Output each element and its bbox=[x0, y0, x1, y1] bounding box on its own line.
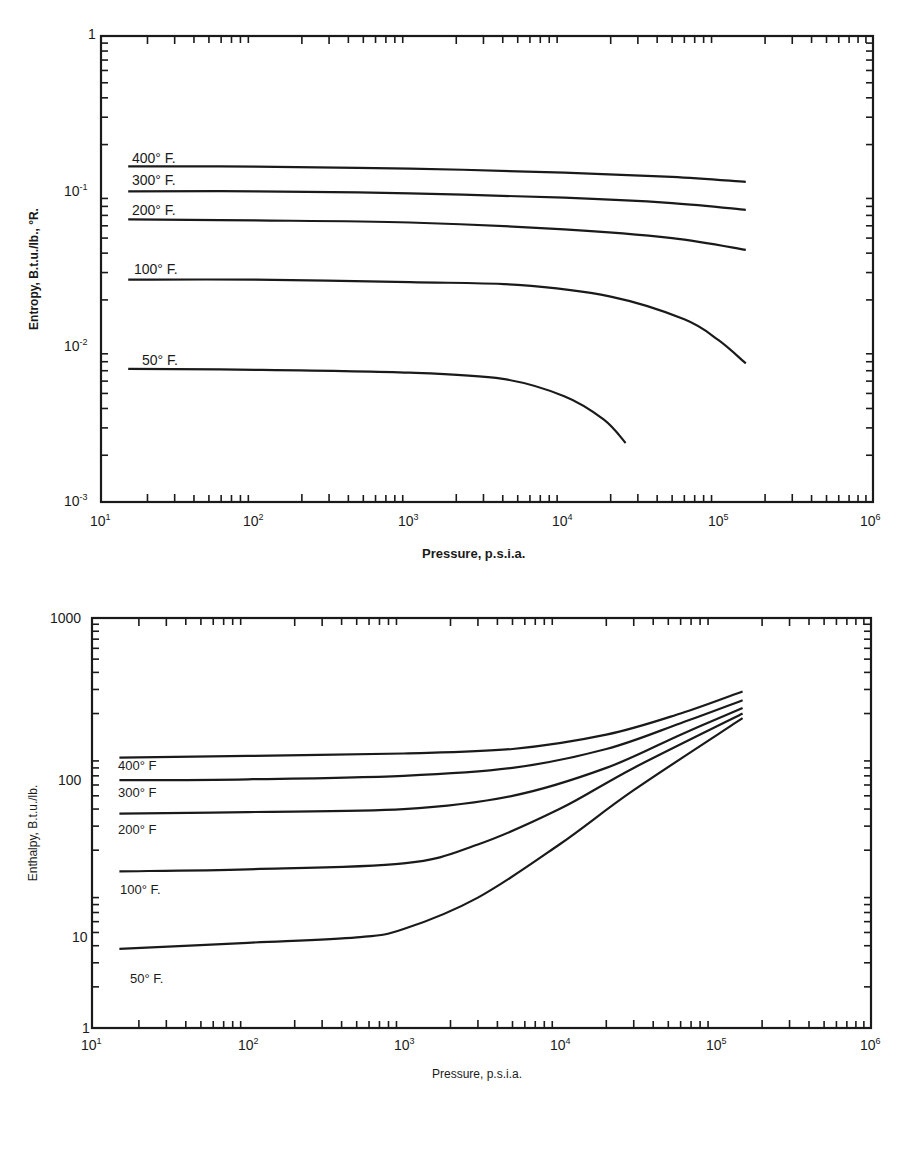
series-label-300F: 300° F bbox=[118, 785, 156, 800]
x-tick-label-1e4: 104 bbox=[552, 512, 573, 529]
series-label-400F: 400° F bbox=[118, 758, 156, 773]
y-tick-label-100: 100 bbox=[58, 772, 81, 788]
entropy-plot-area bbox=[0, 0, 909, 580]
series-curve-3 bbox=[119, 714, 742, 872]
series-label-100F: 100° F. bbox=[134, 261, 178, 277]
entropy-x-axis-title: Pressure, p.s.i.a. bbox=[422, 546, 525, 561]
x-tick-label-1e5: 105 bbox=[708, 512, 729, 529]
series-label-100F: 100° F. bbox=[120, 882, 161, 897]
series-label-50F: 50° F. bbox=[130, 971, 163, 986]
x-tick-label-1e6: 106 bbox=[860, 512, 881, 529]
enthalpy-x-axis-title: Pressure, p.s.i.a. bbox=[432, 1067, 522, 1081]
series-label-400F: 400° F. bbox=[132, 150, 176, 166]
series-curve-4 bbox=[128, 369, 625, 443]
y-tick-label-1: 1 bbox=[82, 1020, 90, 1036]
entropy-y-axis-title: Entropy, B.t.u./lb., °R. bbox=[27, 179, 41, 359]
enthalpy-y-axis-title: Enthalpy, B.t.u./lb. bbox=[26, 758, 40, 908]
x-tick-label-1e2: 102 bbox=[243, 512, 264, 529]
x-tick-label-1e1: 101 bbox=[90, 512, 111, 529]
series-label-200F: 200° F bbox=[118, 822, 156, 837]
x-tick-label-1e6: 106 bbox=[860, 1036, 881, 1053]
x-tick-label-1e3: 103 bbox=[394, 1036, 415, 1053]
enthalpy-chart: Enthalpy, B.t.u./lb. 1000 100 10 1 101 1… bbox=[0, 580, 909, 1169]
series-label-300F: 300° F. bbox=[132, 172, 176, 188]
x-tick-label-1e4: 104 bbox=[550, 1036, 571, 1053]
y-tick-label-1000: 1000 bbox=[50, 610, 81, 626]
series-label-50F: 50° F. bbox=[142, 352, 178, 368]
series-curve-1 bbox=[128, 191, 746, 210]
y-tick-label-1e-2: 10-2 bbox=[64, 337, 88, 354]
x-tick-label-1e2: 102 bbox=[238, 1036, 259, 1053]
series-curve-3 bbox=[128, 279, 746, 363]
x-tick-label-1e5: 105 bbox=[706, 1036, 727, 1053]
entropy-chart: Entropy, B.t.u./lb., °R. 1 10-1 10-2 10-… bbox=[0, 0, 909, 580]
y-tick-label-10: 10 bbox=[72, 929, 88, 945]
series-curve-0 bbox=[119, 692, 742, 758]
y-tick-label-1e-1: 10-1 bbox=[64, 182, 88, 199]
x-tick-label-1e1: 101 bbox=[81, 1036, 102, 1053]
series-curve-1 bbox=[119, 700, 742, 780]
series-curve-2 bbox=[128, 219, 746, 250]
series-label-200F: 200° F. bbox=[132, 202, 176, 218]
y-tick-label-1e-3: 10-3 bbox=[64, 492, 88, 509]
y-tick-label-1: 1 bbox=[88, 26, 96, 42]
x-tick-label-1e3: 103 bbox=[398, 512, 419, 529]
series-curve-0 bbox=[128, 166, 746, 182]
